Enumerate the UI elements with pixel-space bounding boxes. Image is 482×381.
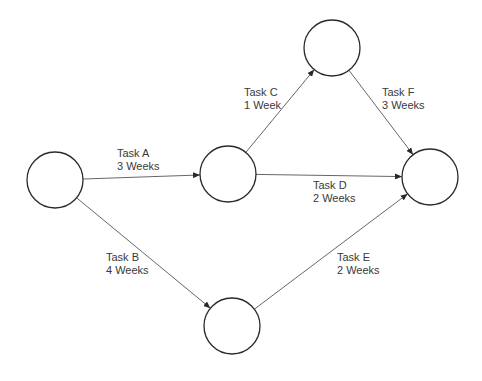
task-name: Task C (244, 86, 278, 98)
task-name: Task D (313, 179, 347, 191)
task-duration: 3 Weeks (382, 99, 425, 111)
node-circle (204, 298, 260, 354)
node-n3 (304, 20, 360, 76)
task-name: Task F (382, 86, 415, 98)
edge-task-a (83, 175, 200, 179)
label-task-b: Task B4 Weeks (106, 251, 149, 276)
node-n5 (204, 298, 260, 354)
edge-task-e (254, 194, 407, 309)
task-duration: 4 Weeks (106, 264, 149, 276)
node-n4 (402, 149, 458, 205)
node-n2 (200, 146, 256, 202)
arrow-line (349, 70, 413, 154)
task-duration: 2 Weeks (337, 264, 380, 276)
task-duration: 2 Weeks (313, 192, 356, 204)
label-task-d: Task D2 Weeks (313, 179, 356, 204)
edge-task-c (246, 70, 314, 153)
task-duration: 1 Week (244, 99, 282, 111)
node-circle (304, 20, 360, 76)
arrow-line (254, 194, 407, 309)
nodes-layer (27, 20, 458, 354)
label-task-e: Task E2 Weeks (337, 251, 380, 276)
network-diagram: Task A3 WeeksTask B4 WeeksTask C1 WeekTa… (0, 0, 482, 381)
node-circle (402, 149, 458, 205)
arrow-line (83, 175, 200, 179)
labels-layer: Task A3 WeeksTask B4 WeeksTask C1 WeekTa… (106, 86, 425, 276)
label-task-c: Task C1 Week (244, 86, 282, 111)
node-circle (200, 146, 256, 202)
arrow-line (77, 198, 211, 308)
task-name: Task B (106, 251, 139, 263)
arrow-line (256, 174, 402, 176)
label-task-a: Task A3 Weeks (117, 147, 160, 172)
edge-task-f (349, 70, 413, 154)
label-task-f: Task F3 Weeks (382, 86, 425, 111)
task-duration: 3 Weeks (117, 160, 160, 172)
edge-task-d (256, 174, 402, 176)
task-name: Task E (337, 251, 370, 263)
node-n1 (27, 152, 83, 208)
task-name: Task A (117, 147, 150, 159)
node-circle (27, 152, 83, 208)
arrow-line (246, 70, 314, 153)
edge-task-b (77, 198, 211, 308)
